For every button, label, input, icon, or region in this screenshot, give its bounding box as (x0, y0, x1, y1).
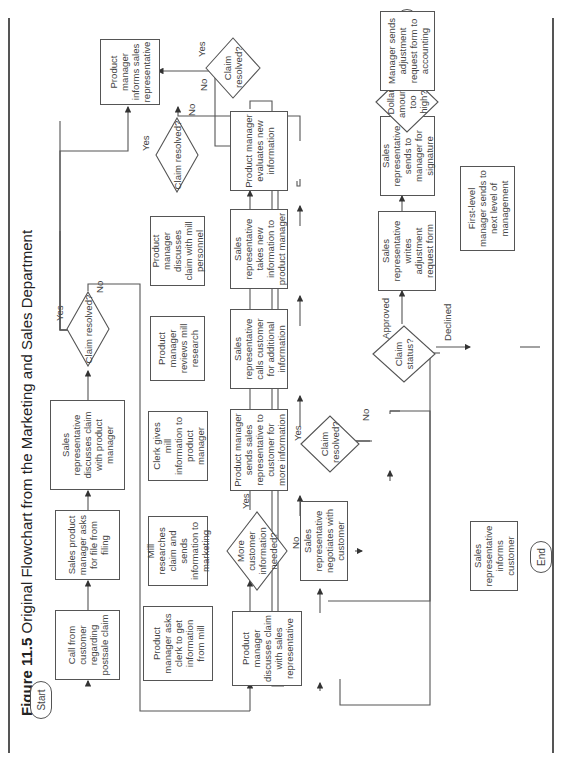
process-rep-informs-customer: Sales representative informs customer (470, 521, 518, 591)
process-pm-discusses-rep: Product manager discusses claim with sal… (232, 611, 302, 686)
process-pm-informs-rep: Product manager informs sales representa… (100, 39, 160, 105)
edge-label-no: No (94, 281, 105, 293)
process-text: Product manager informs sales representa… (108, 42, 152, 103)
process-rep-negotiates: Sales representative negotiates with cus… (300, 501, 348, 581)
process-text: Sales representative informs customer (472, 524, 516, 588)
decision-claim-resolved-3: Claim resolved? (205, 37, 261, 99)
end-terminal-declined: End (530, 541, 552, 573)
process-call-from-customer: Call from customer regarding postsale cl… (55, 610, 120, 680)
decision-dollar-too-high (376, 102, 377, 103)
decision-text: Claim resolved? (172, 121, 183, 190)
process-text: Product manager discusses claim with mil… (150, 219, 205, 283)
process-text: Sales representative sends to manager fo… (380, 119, 435, 193)
process-text: Product manager asks clerk to get inform… (151, 609, 206, 678)
decision-text: Claim resolved? (222, 48, 244, 88)
process-text: Call from customer regarding postsale cl… (66, 613, 110, 677)
process-clerk-gives-info: Clerk gives mill information to product … (148, 411, 208, 481)
end-terminal-approved: End (396, 9, 418, 41)
end-label: End (536, 548, 547, 566)
decision-more-info-needed: More customer information needed? (226, 511, 288, 591)
decision-text: Claim resolved? (319, 425, 341, 463)
process-text: Product manager reviews mill research (156, 319, 200, 378)
process-text: Mill researches claim and sends informat… (145, 519, 211, 583)
edge-label-no: No (198, 79, 209, 91)
decision-text: More customer information needed? (235, 526, 279, 576)
decision-claim-resolved-2: Claim resolved? (155, 117, 199, 193)
process-rep-sends-manager: Sales representative sends to manager fo… (380, 116, 435, 196)
process-text: Sales product manager asks for file from… (66, 513, 110, 577)
edge-label-declined: Declined (442, 304, 453, 341)
decision-text: Claim resolved? (83, 295, 94, 364)
process-sales-pm-asks-file: Sales product manager asks for file from… (55, 510, 120, 580)
process-pm-asks-clerk: Product manager asks clerk to get inform… (143, 606, 213, 681)
edge-label-approved: Approved (380, 298, 391, 339)
process-text: Sales representative writes adjustment r… (380, 214, 435, 288)
edge-label-yes: Yes (240, 493, 251, 509)
decision-text: Claim status? (393, 337, 415, 371)
edge-label-yes: Yes (54, 305, 65, 321)
process-text: Sales representative discusses claim wit… (60, 403, 115, 487)
edge-label-no: No (186, 104, 197, 116)
process-pm-discusses-mill: Product manager discusses claim with mil… (150, 216, 205, 286)
process-text: Product manager evaluates new informatio… (243, 114, 276, 188)
process-pm-evaluates: Product manager evaluates new informatio… (230, 111, 288, 191)
flowchart-page: Figure 11.5 Original Flowchart from the … (0, 0, 582, 771)
decision-claim-resolved-1: Claim resolved? (66, 291, 110, 367)
process-rep-takes-info: Sales representative takes new informati… (230, 209, 288, 289)
edge-label-no: No (360, 409, 371, 421)
process-text: Clerk gives mill information to product … (151, 414, 206, 478)
process-mill-researches: Mill researches claim and sends informat… (148, 516, 208, 586)
process-text: Product manager sends sales representati… (232, 412, 287, 488)
process-pm-sends-rep: Product manager sends sales representati… (230, 409, 288, 491)
edge-label-yes: Yes (292, 425, 303, 441)
process-rep-discusses-with-pm: Sales representative discusses claim wit… (50, 400, 125, 490)
start-terminal: Start (30, 681, 52, 719)
start-label: Start (36, 689, 47, 710)
process-text: Sales representative takes new informati… (232, 212, 287, 286)
edge-label-yes: Yes (140, 135, 151, 151)
process-text: Sales representative negotiates with cus… (302, 504, 346, 578)
process-text: Product manager discusses claim with sal… (240, 614, 295, 683)
process-text: Sales representative calls customer for … (232, 312, 287, 386)
process-rep-writes-form: Sales representative writes adjustment r… (378, 211, 436, 291)
process-pm-reviews-research: Product manager reviews mill research (150, 316, 205, 381)
edge-label-yes: Yes (196, 41, 207, 57)
process-rep-calls-customer: Sales representative calls customer for … (230, 309, 288, 389)
end-label: End (402, 16, 413, 34)
decision-claim-resolved-4: Claim resolved? (300, 415, 360, 473)
